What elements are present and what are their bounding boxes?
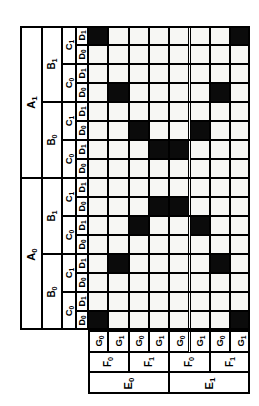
row-header-label: D0 — [78, 277, 87, 287]
row-header-a-a0-1: A0 — [20, 178, 42, 330]
kmap-cell-empty — [129, 235, 149, 254]
row-header-label: D1 — [78, 144, 87, 154]
row-header-d-d0-11: D0 — [76, 235, 88, 254]
row-group-separator — [20, 177, 250, 180]
row-header-c-c1-2: C1 — [62, 102, 76, 140]
kmap-cell-empty — [169, 159, 189, 178]
kmap-cell-empty — [149, 254, 169, 273]
row-header-label: D0 — [78, 125, 87, 135]
col-header-e-e0-0: E0 — [88, 372, 169, 394]
kmap-cell-empty — [190, 178, 210, 197]
kmap-cell-empty — [108, 26, 128, 45]
kmap-cell-empty — [108, 273, 128, 292]
kmap-cell-empty — [230, 178, 250, 197]
kmap-cell-empty — [129, 26, 149, 45]
kmap-cell-filled — [190, 216, 210, 235]
kmap-cell-empty — [169, 178, 189, 197]
row-header-label: D1 — [78, 220, 87, 230]
kmap-cell-empty — [149, 64, 169, 83]
kmap-cell-empty — [108, 178, 128, 197]
kmap-cell-empty — [210, 273, 230, 292]
row-header-d-d0-13: D0 — [76, 273, 88, 292]
row-header-d-d0-5: D0 — [76, 121, 88, 140]
kmap-cell-empty — [149, 121, 169, 140]
kmap-cell-empty — [129, 159, 149, 178]
kmap-cell-filled — [210, 83, 230, 102]
kmap-cell-empty — [88, 121, 108, 140]
kmap-cell-empty — [230, 197, 250, 216]
row-header-label: B0 — [47, 286, 57, 297]
kmap-cell-empty — [230, 159, 250, 178]
row-header-c-c0-3: C0 — [62, 140, 76, 178]
col-header-g-g1-7: G1 — [230, 330, 250, 352]
col-header-label: F1 — [144, 357, 154, 367]
kmap-cell-empty — [230, 292, 250, 311]
kmap-cell-empty — [149, 273, 169, 292]
kmap-cell-empty — [149, 159, 169, 178]
kmap-cell-empty — [210, 159, 230, 178]
row-header-b-b1-0: B1 — [42, 26, 62, 102]
kmap-cell-filled — [210, 254, 230, 273]
col-header-label: G1 — [114, 335, 124, 346]
row-header-label: A1 — [25, 96, 36, 108]
kmap-cell-empty — [129, 197, 149, 216]
kmap-cell-filled — [149, 197, 169, 216]
col-header-g-g1-3: G1 — [149, 330, 169, 352]
kmap-cell-empty — [230, 216, 250, 235]
kmap-cell-empty — [88, 159, 108, 178]
kmap-cell-filled — [88, 26, 108, 45]
kmap-cell-empty — [88, 102, 108, 121]
kmap-cell-empty — [149, 83, 169, 102]
kmap-cell-empty — [210, 64, 230, 83]
row-header-c-c0-1: C0 — [62, 64, 76, 102]
kmap-cell-empty — [210, 140, 230, 159]
kmap-cell-empty — [210, 45, 230, 64]
kmap-cell-empty — [190, 45, 210, 64]
col-header-label: G0 — [174, 335, 184, 346]
kmap-cell-empty — [149, 216, 169, 235]
row-header-d-d1-6: D1 — [76, 140, 88, 159]
kmap-cell-empty — [230, 83, 250, 102]
col-header-f-f0-0: F0 — [88, 352, 129, 372]
kmap-cell-empty — [129, 292, 149, 311]
kmap-cell-empty — [129, 64, 149, 83]
col-header-g-g1-5: G1 — [190, 330, 210, 352]
kmap-cell-empty — [230, 102, 250, 121]
row-header-c-c0-7: C0 — [62, 292, 76, 330]
kmap-cell-empty — [88, 45, 108, 64]
kmap-cell-empty — [88, 273, 108, 292]
kmap-cell-empty — [230, 64, 250, 83]
kmap-cell-empty — [108, 140, 128, 159]
row-header-label: D1 — [78, 30, 87, 40]
kmap-cell-empty — [210, 197, 230, 216]
col-header-label: G0 — [215, 335, 225, 346]
kmap-cell-empty — [190, 197, 210, 216]
kmap-cell-empty — [149, 235, 169, 254]
row-header-d-d1-2: D1 — [76, 64, 88, 83]
kmap-cell-empty — [190, 235, 210, 254]
col-group-separator — [209, 26, 211, 330]
row-header-label: D0 — [78, 315, 87, 325]
row-header-d-d1-0: D1 — [76, 26, 88, 45]
row-header-d-d0-15: D0 — [76, 311, 88, 330]
kmap-cell-empty — [108, 45, 128, 64]
kmap-cell-empty — [108, 64, 128, 83]
kmap-cell-empty — [88, 292, 108, 311]
kmap-cell-empty — [88, 83, 108, 102]
col-header-label: G0 — [134, 335, 144, 346]
kmap-cell-empty — [210, 311, 230, 330]
row-header-label: B0 — [47, 134, 57, 145]
row-header-label: B1 — [47, 58, 57, 69]
kmap-cell-empty — [88, 197, 108, 216]
kmap-cell-empty — [230, 45, 250, 64]
col-header-label: F0 — [103, 357, 113, 367]
row-header-label: C1 — [64, 268, 74, 279]
kmap-cell-filled — [108, 83, 128, 102]
kmap-cell-empty — [108, 216, 128, 235]
row-header-label: C1 — [64, 116, 74, 127]
kmap-cell-empty — [88, 235, 108, 254]
kmap-cell-empty — [210, 102, 230, 121]
kmap-cell-empty — [169, 64, 189, 83]
col-header-g-g1-1: G1 — [108, 330, 128, 352]
kmap-cell-empty — [190, 140, 210, 159]
